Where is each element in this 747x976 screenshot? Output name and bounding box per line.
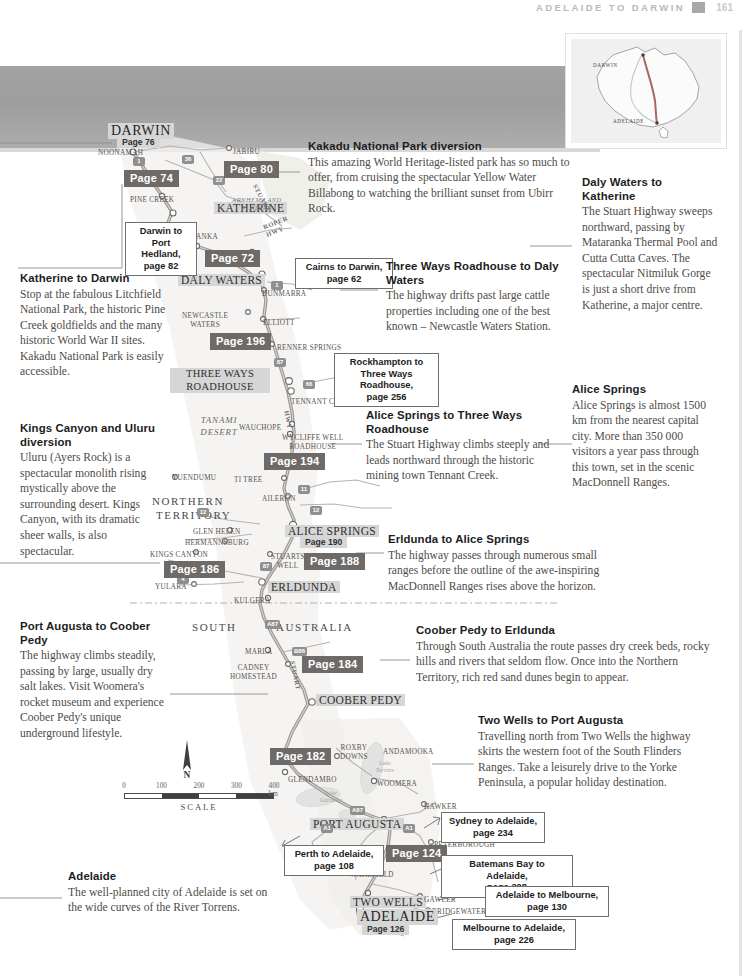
info-block-title: Alice Springs — [572, 383, 718, 397]
scale-bar-graphic — [124, 793, 274, 799]
map-place-label: Wycliffe Well Roadhouse — [282, 434, 343, 451]
scale-tick-label: 200 — [194, 782, 205, 790]
info-block-two-wells-to-port-augusta: Two Wells to Port AugustaTravelling nort… — [478, 714, 718, 791]
route-shield-icon: 87 — [274, 358, 286, 367]
map-page-subtitle[interactable]: Page 190 — [300, 536, 347, 548]
map-place-label: Erldunda — [268, 581, 340, 593]
map-region-label: Northern — [152, 495, 224, 507]
map-page-chip[interactable]: Page 124 — [386, 845, 447, 862]
route-shield-icon: 11 — [298, 485, 310, 494]
map-region-label: Territory — [156, 509, 231, 521]
route-shield-icon: A1 — [321, 824, 333, 833]
info-block-port-augusta-to-coober-pedy: Port Augusta to Coober PedyThe highway c… — [20, 620, 170, 742]
info-block-title: Kakadu National Park diversion — [308, 140, 570, 154]
map-lake-label: Lake Torrens — [368, 760, 402, 773]
map-place-label: Elliott — [263, 319, 295, 327]
map-place-label: Glen Helen — [193, 528, 241, 536]
map-place-label: Kulgera — [234, 597, 270, 605]
map-page-chip[interactable]: Page 194 — [264, 453, 325, 470]
info-block-title: Two Wells to Port Augusta — [478, 714, 718, 728]
info-block-title: Kings Canyon and Uluru diversion — [20, 422, 160, 449]
map-place-label: Bridgewater — [432, 908, 486, 916]
map-page-chip[interactable]: Page 80 — [224, 161, 279, 178]
map-cross-reference-box[interactable]: Cairns to Darwin, page 62 — [295, 258, 393, 289]
info-block-body: Stop at the fabulous Litchfield National… — [20, 287, 168, 381]
map-page-chip[interactable]: Page 182 — [270, 748, 331, 765]
map-place-label: Roxby Downs — [340, 744, 368, 761]
info-block-title: Three Ways Roadhouse to Daly Waters — [386, 260, 570, 287]
map-page-chip[interactable]: Page 188 — [304, 553, 365, 570]
map-place-label: Hawker — [424, 803, 457, 811]
info-block-body: Through South Australia the route passes… — [416, 639, 718, 686]
map-cross-reference-box[interactable]: Rockhampton to Three Ways Roadhouse, pag… — [334, 353, 439, 407]
map-cross-reference-box[interactable]: Melbourne to Adelaide, page 226 — [452, 919, 576, 950]
map-cross-reference-box[interactable]: Adelaide to Melbourne, page 130 — [485, 886, 609, 917]
map-place-label: Aileron — [262, 495, 296, 503]
map-lake-label: Lake Gairdner — [314, 790, 348, 803]
compass-north-label: N — [176, 770, 198, 780]
info-block-title: Coober Pedy to Erldunda — [416, 624, 718, 638]
map-place-label: Yulara — [155, 583, 187, 591]
route-shield-icon: 12 — [310, 506, 322, 515]
map-cross-reference-box[interactable]: Perth to Adelaide, page 108 — [284, 845, 384, 876]
map-place-label: Andamooka — [383, 748, 434, 756]
info-block-body: The Stuart Highway sweeps northward, pas… — [582, 204, 718, 313]
info-block-body: Alice Springs is almost 1500 km from the… — [572, 398, 718, 492]
map-scale-bar: 0100200300400 km Scale — [124, 782, 274, 812]
info-block-body: The highway drifts past large cattle pro… — [386, 288, 570, 335]
info-block-coober-pedy-to-erldunda: Coober Pedy to ErldundaThrough South Aus… — [416, 624, 718, 685]
map-place-label: Renner Springs — [277, 344, 341, 352]
info-block-body: The highway passes through numerous smal… — [388, 548, 630, 595]
map-page-chip[interactable]: Page 74 — [124, 170, 179, 187]
map-desert-label: Tanami Desert — [186, 414, 252, 438]
map-place-label: Yuendumu — [172, 474, 216, 482]
map-page-chip[interactable]: Page 196 — [210, 333, 271, 350]
info-block-title: Port Augusta to Coober Pedy — [20, 620, 170, 647]
map-region-label: Australia — [276, 621, 353, 633]
route-shield-icon: 66 — [303, 380, 315, 389]
map-cross-reference-box[interactable]: Darwin to Port Hedland, page 82 — [125, 222, 197, 276]
scale-caption: Scale — [124, 802, 274, 812]
info-block-title: Daly Waters to Katherine — [582, 176, 718, 203]
map-place-label: Jabiru — [233, 148, 260, 156]
map-place-label: Stuarts Well — [271, 553, 305, 570]
info-block-title: Alice Springs to Three Ways Roadhouse — [366, 409, 556, 436]
route-shield-icon: 87 — [260, 562, 272, 571]
route-shield-icon: 12 — [197, 508, 209, 517]
info-block-alice-springs-to-three-ways-roadhouse: Alice Springs to Three Ways RoadhouseThe… — [366, 409, 556, 484]
scale-tick-labels: 0100200300400 km — [124, 782, 274, 793]
info-block-kings-canyon-and-uluru-diversion: Kings Canyon and Uluru diversionUluru (A… — [20, 422, 160, 559]
map-roadhouse-label: Three Ways Roadhouse — [170, 368, 270, 393]
scale-tick-label: 0 — [122, 782, 126, 790]
info-block-body: This amazing World Heritage-listed park … — [308, 155, 570, 217]
info-block-body: The highway climbs steadily, passing by … — [20, 648, 170, 742]
map-place-label: Noonamah — [98, 149, 143, 157]
map-place-label: Ti Tree — [234, 476, 263, 484]
map-page-subtitle[interactable]: Page 76 — [117, 136, 160, 148]
map-place-label: Hermannsburg — [185, 539, 249, 547]
route-shield-icon: A87 — [265, 620, 280, 629]
route-shield-icon: B86 — [292, 647, 307, 656]
map-page-subtitle[interactable]: Page 126 — [362, 923, 409, 935]
info-block-body: The Stuart Highway climbs steeply and le… — [366, 437, 556, 484]
map-page-chip[interactable]: Page 72 — [205, 250, 260, 267]
info-block-daly-waters-to-katherine: Daly Waters to KatherineThe Stuart Highw… — [582, 176, 718, 313]
map-place-label: Pine Creek — [130, 196, 174, 204]
map-page-chip[interactable]: Page 184 — [302, 656, 363, 673]
map-place-label: Two Wells — [350, 896, 426, 908]
map-place-label: Woomera — [377, 780, 417, 788]
route-shield-icon: 1 — [133, 157, 145, 166]
map-place-label: Dunmarra — [262, 290, 306, 298]
map-cross-reference-box[interactable]: Sydney to Adelaide, page 234 — [441, 812, 545, 843]
map-place-label: Coober Pedy — [316, 694, 405, 706]
info-block-body: The well-planned city of Adelaide is set… — [68, 885, 276, 916]
map-place-label: Newcastle Waters — [182, 312, 228, 329]
map-place-label: Glendambo — [288, 776, 337, 784]
map-page-chip[interactable]: Page 186 — [164, 561, 225, 578]
info-block-katherine-to-darwin: Katherine to DarwinStop at the fabulous … — [20, 272, 168, 380]
info-block-alice-springs: Alice SpringsAlice Springs is almost 150… — [572, 383, 718, 491]
route-shield-icon: A1 — [403, 824, 415, 833]
map-region-label: South — [192, 621, 237, 633]
scale-tick-label: 400 km — [269, 782, 280, 798]
info-block-adelaide: AdelaideThe well-planned city of Adelaid… — [68, 870, 276, 916]
